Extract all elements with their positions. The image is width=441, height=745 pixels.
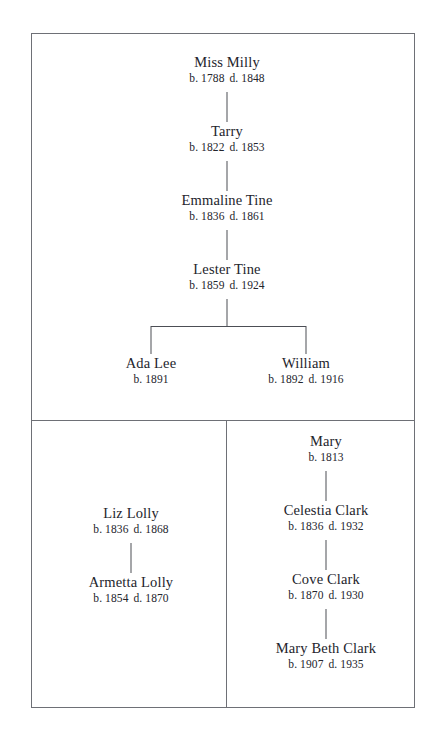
panel-clark-lineage: Mary b. 1813 Celestia Clark b. 1836d. 19… [227, 421, 414, 707]
connector-celestia-to-cove [326, 540, 327, 570]
person-dates: b. 1859d. 1924 [189, 280, 264, 292]
connector-tarry-to-emmaline [227, 161, 228, 191]
connector-liz-to-armetta [131, 543, 132, 573]
person-name: Mary Beth Clark [276, 641, 377, 656]
person-dates: b. 1892d. 1916 [268, 374, 343, 386]
person-name: Miss Milly [189, 55, 264, 70]
person-name: Tarry [189, 124, 264, 139]
person-node-miss-milly: Miss Milly b. 1788d. 1848 [189, 55, 264, 84]
connector-milly-to-tarry [227, 92, 228, 122]
family-tree-chart: Miss Milly b. 1788d. 1848 Tarry b. 1822d… [31, 33, 415, 708]
person-dates: b. 1813 [308, 452, 343, 464]
panel-lolly-lineage: Liz Lolly b. 1836d. 1868 Armetta Lolly b… [32, 421, 227, 707]
person-node-celestia-clark: Celestia Clark b. 1836d. 1932 [284, 503, 369, 532]
person-name: Celestia Clark [284, 503, 369, 518]
connector-sibling-bar [151, 326, 306, 327]
connector-emmaline-to-lester [227, 230, 228, 260]
person-name: Cove Clark [288, 572, 363, 587]
person-node-armetta-lolly: Armetta Lolly b. 1854d. 1870 [89, 575, 174, 604]
connector-cove-to-mary-beth [326, 609, 327, 639]
person-dates: b. 1822d. 1853 [189, 142, 264, 154]
person-dates: b. 1836d. 1932 [284, 521, 369, 533]
person-dates: b. 1907d. 1935 [276, 659, 377, 671]
person-name: Armetta Lolly [89, 575, 174, 590]
person-name: Ada Lee [126, 356, 177, 371]
person-dates: b. 1891 [126, 374, 177, 386]
person-dates: b. 1788d. 1848 [189, 73, 264, 85]
person-name: Liz Lolly [93, 506, 168, 521]
person-node-ada-lee: Ada Lee b. 1891 [126, 356, 177, 385]
person-node-emmaline-tine: Emmaline Tine b. 1836d. 1861 [182, 193, 273, 222]
person-node-liz-lolly: Liz Lolly b. 1836d. 1868 [93, 506, 168, 535]
person-node-mary: Mary b. 1813 [308, 434, 343, 463]
person-node-tarry: Tarry b. 1822d. 1853 [189, 124, 264, 153]
connector-bar-to-ada-lee [151, 326, 152, 354]
person-dates: b. 1836d. 1861 [182, 211, 273, 223]
person-node-mary-beth-clark: Mary Beth Clark b. 1907d. 1935 [276, 641, 377, 670]
person-dates: b. 1836d. 1868 [93, 524, 168, 536]
person-name: Lester Tine [189, 262, 264, 277]
connector-bar-to-william [306, 326, 307, 354]
panel-tine-lineage: Miss Milly b. 1788d. 1848 Tarry b. 1822d… [32, 34, 414, 421]
person-node-lester-tine: Lester Tine b. 1859d. 1924 [189, 262, 264, 291]
person-node-cove-clark: Cove Clark b. 1870d. 1930 [288, 572, 363, 601]
person-dates: b. 1854d. 1870 [89, 593, 174, 605]
person-node-william: William b. 1892d. 1916 [268, 356, 343, 385]
connector-lester-stem [227, 299, 228, 326]
person-name: Mary [308, 434, 343, 449]
person-dates: b. 1870d. 1930 [288, 590, 363, 602]
person-name: William [268, 356, 343, 371]
person-name: Emmaline Tine [182, 193, 273, 208]
connector-mary-to-celestia [326, 471, 327, 501]
